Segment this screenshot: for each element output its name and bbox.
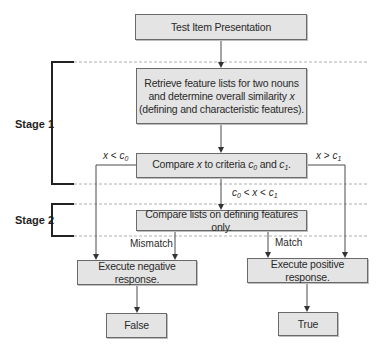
stage-1-label: Stage 1 [15, 118, 54, 130]
node-text: Compare x to criteria c0 and c1. [152, 158, 291, 174]
node-text: Compare lists on defining features only. [137, 208, 306, 234]
test-item-presentation-node: Test Item Presentation [135, 14, 307, 40]
node-text-line3: (defining and characteristic features). [139, 103, 304, 116]
retrieve-features-node: Retrieve feature lists for two nouns and… [136, 68, 307, 124]
match-label: Match [275, 237, 302, 248]
connector-lines [0, 0, 383, 356]
node-text-line1: Retrieve feature lists for two nouns [139, 77, 304, 90]
positive-response-node: Execute positive response. [247, 258, 368, 283]
stage2-bracket [52, 204, 74, 236]
stage1-bracket [52, 62, 74, 184]
x-greater-than-c1-label: x > c1 [316, 150, 341, 162]
node-text: False [124, 319, 149, 332]
compare-criteria-node: Compare x to criteria c0 and c1. [136, 153, 307, 178]
node-text: Execute positive response. [248, 258, 367, 284]
node-text: Test Item Presentation [171, 21, 271, 34]
x-less-than-c0-label: x < c0 [103, 150, 128, 162]
stage-2-label: Stage 2 [15, 214, 54, 226]
between-criteria-label: c0 < x < c1 [232, 187, 278, 199]
false-node: False [106, 313, 167, 338]
negative-response-node: Execute negative response. [77, 260, 197, 285]
node-text: True [298, 318, 318, 331]
compare-defining-features-node: Compare lists on defining features only. [136, 210, 307, 231]
node-text: Execute negative response. [78, 260, 196, 286]
mismatch-label: Mismatch [130, 238, 173, 249]
true-node: True [278, 312, 338, 336]
node-text-line2: and determine overall similarity x [139, 90, 304, 103]
